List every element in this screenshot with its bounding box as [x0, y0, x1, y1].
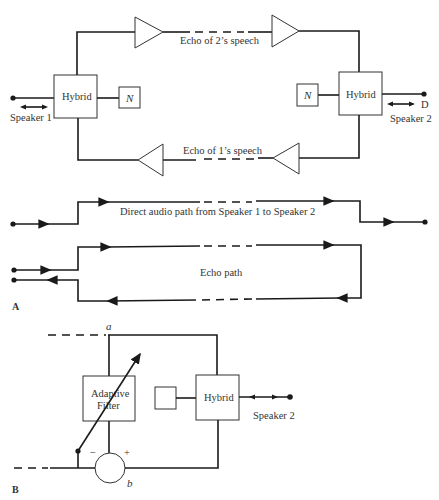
adaptive-filter-label-line1: Adaptive: [91, 388, 130, 399]
echo-path: Echo path: [11, 245, 361, 301]
speaker2-bidirectional-arrow-icon: [387, 102, 415, 107]
amplifier-bottom-right-icon: [273, 143, 299, 174]
summing-junction: [95, 453, 125, 483]
amplifier-top-right-icon: [272, 15, 299, 47]
direct-audio-path: Direct audio path from Speaker 1 to Spea…: [10, 201, 427, 227]
part-a-circuit: Speaker 1 Hybrid N Echo of 2’s speech Hy…: [10, 15, 432, 176]
terminal-d-label: D: [421, 99, 429, 110]
network1-label: N: [125, 92, 134, 104]
echo-path-label: Echo path: [200, 267, 243, 278]
speaker2-b-label: Speaker 2: [253, 410, 295, 421]
node-b-label: b: [127, 477, 133, 489]
node-a-label: a: [106, 320, 112, 332]
echo-top-label: Echo of 2’s speech: [180, 35, 260, 46]
amplifier-bottom-left-icon: [138, 144, 163, 176]
plus-sign: +: [124, 447, 130, 458]
network2-label: N: [303, 89, 312, 101]
echo-cancellation-diagram: Speaker 1 Hybrid N Echo of 2’s speech Hy…: [0, 0, 439, 500]
part-b-label: B: [12, 484, 19, 495]
hybrid-b-label: Hybrid: [204, 392, 234, 403]
amplifier-top-left-icon: [135, 17, 163, 48]
speaker2-terminal-b: [287, 394, 293, 400]
speaker1-bidirectional-arrow-icon: [20, 105, 48, 110]
hybrid2-label: Hybrid: [346, 89, 376, 100]
speaker1-label: Speaker 1: [10, 112, 52, 123]
hybrid1-label: Hybrid: [62, 91, 92, 102]
minus-sign: −: [90, 447, 96, 458]
part-b-circuit: a Adaptive Filter Hybrid Speaker 2 − + b: [14, 320, 295, 489]
arrow-left-icon: [249, 395, 255, 400]
speaker2-terminal: [421, 91, 426, 96]
direct-path-label: Direct audio path from Speaker 1 to Spea…: [120, 206, 315, 217]
echo-bottom-label: Echo of 1’s speech: [183, 145, 263, 156]
arrow-right-icon: [272, 395, 278, 400]
part-a-label: A: [12, 301, 20, 312]
speaker2-label: Speaker 2: [390, 113, 432, 124]
network-box: [155, 387, 176, 409]
